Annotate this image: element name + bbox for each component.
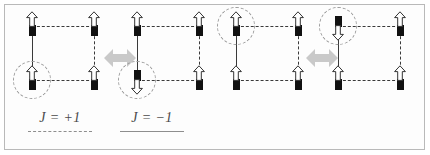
arrow-up-icon [192, 11, 206, 27]
arrow-up-icon [229, 11, 243, 27]
arrow-up-icon [393, 11, 407, 27]
spin-site-bottom-left [226, 65, 246, 95]
plaquette-2 [133, 22, 211, 90]
legend-item-antiferromagnetic: J = −1 [120, 110, 184, 132]
arrow-up-icon [130, 11, 144, 27]
legend-line-dashed [28, 131, 92, 132]
spin-site-bottom-right [84, 65, 104, 95]
spin-plaquette-figure: J = +1 J = −1 [0, 0, 430, 155]
spin-site-bottom-right [189, 65, 209, 95]
plaquette-4 [334, 22, 412, 90]
bond-legend: J = +1 J = −1 [28, 110, 184, 132]
plaquette-1 [28, 22, 106, 90]
spin-site-top-right [84, 11, 104, 41]
spin-site-bottom-left [127, 65, 147, 95]
arrow-down-icon [331, 25, 345, 41]
arrow-up-icon [331, 65, 345, 81]
spin-site-top-right [288, 11, 308, 41]
spin-site-top-right [390, 11, 410, 41]
plaquette-3 [232, 22, 310, 90]
arrow-up-icon [87, 65, 101, 81]
arrow-up-icon [25, 11, 39, 27]
spin-site-bottom-right [390, 65, 410, 95]
arrow-down-icon [130, 79, 144, 95]
arrow-up-icon [291, 65, 305, 81]
arrow-up-icon [229, 65, 243, 81]
spin-site-top-right [189, 11, 209, 41]
spin-site-top-left [127, 11, 147, 41]
spin-site-top-left [22, 11, 42, 41]
legend-line-solid [120, 131, 184, 132]
spin-site-bottom-left [328, 65, 348, 95]
arrow-up-icon [291, 11, 305, 27]
spin-site-top-left [328, 11, 348, 41]
legend-label: J = +1 [39, 110, 81, 126]
legend-item-ferromagnetic: J = +1 [28, 110, 92, 132]
arrow-up-icon [192, 65, 206, 81]
arrow-up-icon [25, 65, 39, 81]
arrow-up-icon [87, 11, 101, 27]
legend-label: J = −1 [131, 110, 173, 126]
arrow-up-icon [393, 65, 407, 81]
spin-site-bottom-left [22, 65, 42, 95]
spin-site-top-left [226, 11, 246, 41]
